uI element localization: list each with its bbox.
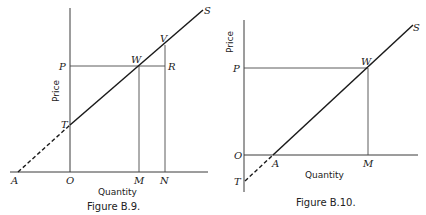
label-t: T xyxy=(61,119,69,130)
y-axis-title: Price xyxy=(225,31,235,53)
x-axis-title: Quantity xyxy=(305,170,345,180)
label-a: A xyxy=(10,175,18,186)
y-axis-title: Price xyxy=(51,80,61,102)
label-p: P xyxy=(58,61,66,72)
label-p: P xyxy=(232,63,240,74)
label-o: O xyxy=(234,150,242,161)
label-w: W xyxy=(131,54,142,65)
label-s: S xyxy=(204,5,211,16)
figure-b10: S P W O A M T Price Quantity Figure B.10… xyxy=(225,20,420,208)
supply-extension-dashed xyxy=(245,155,273,181)
label-a: A xyxy=(271,158,279,169)
label-n: N xyxy=(159,175,170,186)
supply-line-s xyxy=(70,10,203,125)
label-o: O xyxy=(66,175,74,186)
label-m: M xyxy=(362,158,374,169)
figure-caption: Figure B.10. xyxy=(296,197,356,208)
figure-b9: S V P W R T A O M N Price Quantity Figur… xyxy=(10,5,211,212)
x-axis-title: Quantity xyxy=(98,187,138,197)
supply-line-s xyxy=(273,25,413,155)
label-v: V xyxy=(160,33,169,44)
label-m: M xyxy=(133,175,145,186)
figure-caption: Figure B.9. xyxy=(87,201,140,212)
supply-extension-dashed xyxy=(18,125,70,172)
label-t: T xyxy=(234,176,242,187)
label-r: R xyxy=(167,61,176,72)
figures-canvas: S V P W R T A O M N Price Quantity Figur… xyxy=(0,0,426,215)
label-s: S xyxy=(413,22,420,33)
label-w: W xyxy=(361,56,372,67)
